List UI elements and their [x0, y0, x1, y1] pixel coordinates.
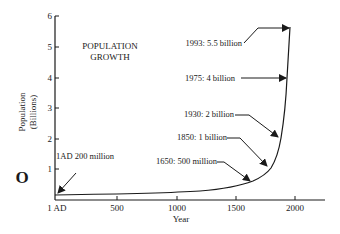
svg-text:1993: 5.5 billion: 1993: 5.5 billion [186, 38, 243, 48]
x-axis [55, 196, 325, 200]
y-tick-3: 3 [48, 103, 53, 113]
y-axis-label: Population (Billions) [17, 92, 38, 132]
x-tick-1500: 1500 [227, 203, 246, 213]
y-axis [55, 16, 59, 200]
population-growth-chart: 1 2 3 4 5 6 1 AD 500 1000 1500 2000 Year… [0, 0, 340, 234]
annotation-1975: 1975: 4 billion [185, 73, 286, 83]
x-tick-1000: 1000 [168, 203, 187, 213]
svg-text:1975: 4 billion: 1975: 4 billion [185, 73, 236, 83]
y-tick-4: 4 [48, 73, 53, 83]
y-tick-5: 5 [48, 42, 53, 52]
y-tick-6: 6 [48, 11, 53, 21]
svg-text:1850: 1 billion: 1850: 1 billion [177, 132, 228, 142]
panel-label: O [15, 168, 28, 187]
x-axis-label: Year [173, 214, 190, 224]
svg-text:1650: 500 million: 1650: 500 million [156, 156, 218, 166]
svg-text:(Billions): (Billions) [28, 95, 38, 130]
y-tick-1: 1 [48, 164, 53, 174]
x-tick-500: 500 [110, 203, 124, 213]
annotation-1993: 1993: 5.5 billion [186, 28, 289, 48]
svg-text:GROWTH: GROWTH [90, 52, 130, 62]
svg-text:POPULATION: POPULATION [82, 41, 138, 51]
x-tick-1ad: 1 AD [47, 203, 67, 213]
x-tick-2000: 2000 [286, 203, 305, 213]
svg-text:Population: Population [17, 92, 27, 132]
annotation-1ad: 1AD 200 million [56, 151, 115, 193]
svg-text:1AD 200 million: 1AD 200 million [56, 151, 115, 161]
chart-title: POPULATION GROWTH [82, 41, 138, 62]
y-tick-labels: 1 2 3 4 5 6 [48, 11, 53, 174]
svg-text:1930: 2 billion: 1930: 2 billion [184, 109, 235, 119]
x-tick-labels: 1 AD 500 1000 1500 2000 [47, 203, 304, 213]
annotation-1650: 1650: 500 million [156, 156, 250, 181]
y-tick-2: 2 [48, 134, 53, 144]
